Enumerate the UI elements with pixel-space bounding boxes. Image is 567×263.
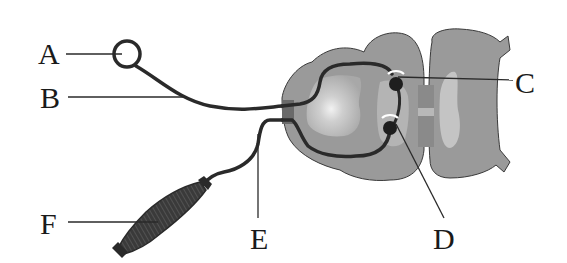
spinal-cord-right-half [429, 29, 510, 178]
reflex-arc-diagram: A B C D E F [0, 0, 567, 263]
gray-matter-left [377, 81, 409, 147]
label-e: E [250, 222, 268, 255]
label-d: D [433, 222, 455, 255]
muscle-effector [112, 176, 212, 258]
ganglion-body [307, 75, 361, 136]
label-c: C [515, 66, 535, 99]
label-a: A [38, 37, 60, 70]
label-b: B [40, 81, 60, 114]
label-f: F [40, 207, 57, 240]
